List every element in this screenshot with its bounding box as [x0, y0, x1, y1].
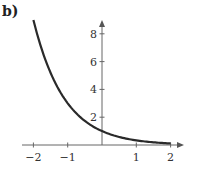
y-tick-label: 8 — [90, 28, 97, 41]
ticks: −2−1122468 — [25, 28, 174, 164]
x-tick-label: 1 — [133, 151, 140, 164]
y-tick-label: 2 — [90, 111, 97, 124]
x-axis-arrow-icon — [177, 142, 184, 148]
exponential-decay-chart: −2−1122468 — [0, 0, 198, 174]
y-tick-label: 6 — [90, 56, 97, 69]
x-tick-label: −2 — [25, 151, 41, 164]
x-tick-label: 2 — [167, 151, 174, 164]
y-axis-arrow-icon — [99, 20, 105, 27]
y-tick-label: 4 — [90, 83, 97, 96]
axes — [22, 20, 184, 148]
x-tick-label: −1 — [60, 151, 76, 164]
